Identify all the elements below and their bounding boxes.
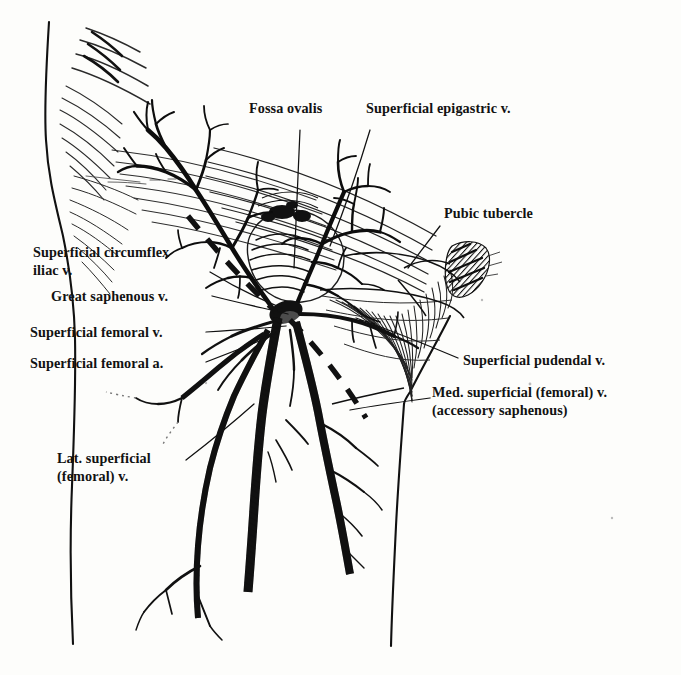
label-superficial-femoral-vein: Superficial femoral v.	[30, 324, 163, 341]
label-med-superficial-femoral-line1: Med. superficial (femoral) v.	[432, 384, 607, 401]
pubic-tubercle-mass	[445, 242, 502, 298]
label-lat-superficial-femoral-line2: (femoral) v.	[57, 468, 128, 485]
label-superficial-femoral-artery: Superficial femoral a.	[30, 355, 163, 372]
saphenous-opening-edge	[398, 261, 450, 316]
superficial-femoral-artery	[106, 334, 264, 446]
leader-sfa	[206, 334, 276, 362]
lateral-superficial-femoral-vein	[136, 330, 268, 640]
label-fossa-ovalis: Fossa ovalis	[249, 100, 322, 117]
medial-superficial-femoral-vein	[296, 322, 382, 574]
leader-med-superficial	[350, 398, 430, 410]
label-superficial-epigastric-vein: Superficial epigastric v.	[366, 100, 511, 117]
anatomical-figure: Fossa ovalis Superficial epigastric v. P…	[0, 0, 681, 675]
leader-superficial-epigastric	[330, 130, 370, 246]
label-pubic-tubercle: Pubic tubercle	[444, 205, 533, 222]
label-great-saphenous-vein: Great saphenous v.	[51, 288, 168, 305]
label-superficial-circumflex-iliac-line2: iliac v.	[33, 262, 72, 279]
label-med-superficial-femoral-line2: (accessory saphenous)	[432, 402, 568, 419]
label-superficial-circumflex-iliac-line1: Superficial circumflex	[33, 244, 169, 261]
superficial-epigastric-vein	[282, 140, 400, 322]
label-lat-superficial-femoral-line1: Lat. superficial	[57, 450, 151, 467]
label-superficial-pudendal-vein: Superficial pudendal v.	[463, 352, 605, 369]
